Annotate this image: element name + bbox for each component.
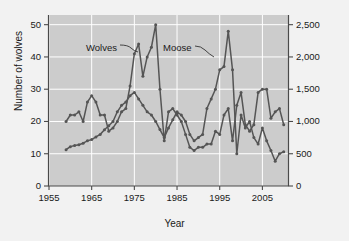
data-point-wolves xyxy=(269,117,272,120)
data-point-moose xyxy=(218,68,221,71)
data-point-wolves xyxy=(77,110,80,113)
data-point-moose xyxy=(124,101,127,104)
tick-label-year-1955: 1955 xyxy=(29,193,69,203)
data-point-wolves xyxy=(248,130,251,133)
x-axis-title: Year xyxy=(0,219,349,229)
gridlines xyxy=(49,15,288,186)
data-point-moose xyxy=(141,104,144,107)
data-point-moose xyxy=(184,120,187,123)
data-point-moose xyxy=(180,114,183,117)
tick-label-moose-500: 500 xyxy=(296,149,342,159)
data-point-wolves xyxy=(222,114,225,117)
tick-label-moose-2000: 2,000 xyxy=(296,52,342,62)
data-point-moose xyxy=(222,65,225,68)
data-point-wolves xyxy=(278,107,281,110)
data-point-moose xyxy=(210,97,213,100)
tick-label-year-1995: 1995 xyxy=(200,193,240,203)
tick-label-wolves-10: 10 xyxy=(6,149,41,159)
data-point-moose xyxy=(133,91,136,94)
data-point-moose xyxy=(129,94,132,97)
chart-figure: 01020304050 05001,0001,5002,0002,500 195… xyxy=(0,0,349,241)
data-point-moose xyxy=(171,118,174,121)
data-point-moose xyxy=(73,144,76,147)
data-point-wolves xyxy=(129,84,132,87)
data-point-moose xyxy=(176,110,179,113)
data-point-wolves xyxy=(282,123,285,126)
data-point-moose xyxy=(205,107,208,110)
series-label-moose: Moose xyxy=(163,43,192,53)
data-point-wolves xyxy=(99,114,102,117)
data-point-moose xyxy=(188,133,191,136)
data-point-wolves xyxy=(120,110,123,113)
data-point-moose xyxy=(193,139,196,142)
data-point-wolves xyxy=(133,52,136,55)
data-point-wolves xyxy=(146,55,149,58)
data-point-wolves xyxy=(184,133,187,136)
tick-label-moose-1000: 1,000 xyxy=(296,116,342,126)
tick-label-year-1985: 1985 xyxy=(157,193,197,203)
data-point-moose xyxy=(227,30,230,33)
data-point-wolves xyxy=(112,126,115,129)
data-point-moose xyxy=(231,68,234,71)
data-point-moose xyxy=(252,136,255,139)
data-point-moose xyxy=(154,120,157,123)
data-point-moose xyxy=(214,88,217,91)
plot-canvas xyxy=(49,15,288,186)
data-point-moose xyxy=(235,152,238,155)
data-point-moose xyxy=(244,126,247,129)
data-point-wolves xyxy=(86,101,89,104)
data-point-wolves xyxy=(116,120,119,123)
data-point-moose xyxy=(257,143,260,146)
data-point-wolves xyxy=(82,120,85,123)
data-point-wolves xyxy=(90,94,93,97)
data-point-moose xyxy=(120,104,123,107)
data-point-moose xyxy=(248,120,251,123)
data-point-wolves xyxy=(150,46,153,49)
leader-line-moose xyxy=(195,46,214,57)
data-point-wolves xyxy=(235,104,238,107)
data-point-moose xyxy=(103,128,106,131)
data-point-moose xyxy=(197,136,200,139)
data-point-moose xyxy=(77,143,80,146)
data-point-moose xyxy=(274,160,277,163)
tick-label-year-2005: 2005 xyxy=(242,193,282,203)
data-point-wolves xyxy=(240,91,243,94)
data-point-moose xyxy=(167,126,170,129)
data-point-wolves xyxy=(210,143,213,146)
data-point-wolves xyxy=(154,23,157,26)
data-point-wolves xyxy=(167,110,170,113)
data-point-moose xyxy=(65,148,68,151)
tick-label-wolves-0: 0 xyxy=(6,181,41,191)
data-point-wolves xyxy=(261,88,264,91)
data-point-moose xyxy=(137,97,140,100)
data-point-moose xyxy=(82,142,85,145)
data-point-moose xyxy=(261,126,264,129)
series-label-wolves: Wolves xyxy=(86,43,117,53)
data-point-wolves xyxy=(274,110,277,113)
tick-label-year-1965: 1965 xyxy=(72,193,112,203)
data-point-wolves xyxy=(94,101,97,104)
data-point-wolves xyxy=(65,120,68,123)
data-point-wolves xyxy=(218,133,221,136)
data-point-wolves xyxy=(227,107,230,110)
data-point-moose xyxy=(107,124,110,127)
data-point-moose xyxy=(282,150,285,153)
data-point-wolves xyxy=(231,139,234,142)
data-point-wolves xyxy=(257,91,260,94)
data-point-moose xyxy=(158,128,161,131)
y-axis-left-title: Number of wolves xyxy=(14,16,24,126)
data-point-moose xyxy=(150,114,153,117)
data-point-wolves xyxy=(73,114,76,117)
data-point-moose xyxy=(69,145,72,148)
data-point-wolves xyxy=(205,143,208,146)
data-point-moose xyxy=(112,120,115,123)
data-point-wolves xyxy=(197,146,200,149)
data-point-wolves xyxy=(188,146,191,149)
data-point-moose xyxy=(94,135,97,138)
data-point-wolves xyxy=(103,114,106,117)
data-point-wolves xyxy=(171,107,174,110)
data-point-moose xyxy=(269,149,272,152)
data-point-wolves xyxy=(252,123,255,126)
data-point-moose xyxy=(116,110,119,113)
leader-line-wolves xyxy=(120,45,138,52)
